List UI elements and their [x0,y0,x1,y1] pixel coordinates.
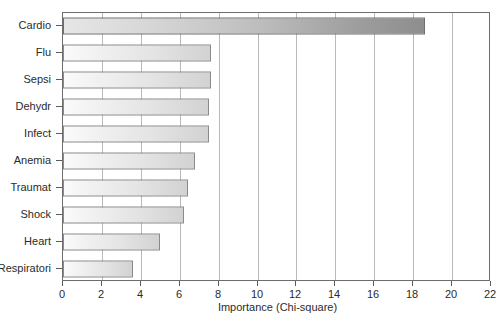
x-tick [218,281,219,286]
bar-slot [63,94,489,121]
y-tick [56,106,62,107]
bar[interactable] [63,18,425,35]
bar[interactable] [63,179,188,196]
x-tick [62,281,63,286]
y-tick-label-traumat: Traumat [10,181,51,193]
y-tick-label-anemia: Anemia [14,154,51,166]
y-tick [56,160,62,161]
plot-area [62,12,490,281]
bar-slot [63,228,489,255]
y-tick [56,241,62,242]
y-tick-label-flu: Flu [36,46,51,58]
x-tick [451,281,452,286]
x-tick-label-12: 12 [289,288,301,300]
chart-screenshot: CardioFluSepsiDehydrInfectAnemiaTraumatS… [0,0,499,318]
y-tick [56,187,62,188]
y-tick-label-heart: Heart [24,235,51,247]
y-tick-label-cardio: Cardio [19,19,51,31]
x-tick-label-6: 6 [176,288,182,300]
x-tick [412,281,413,286]
bar-slot [63,201,489,228]
x-axis-title: Importance (Chi-square) [0,301,499,313]
x-tick-label-20: 20 [445,288,457,300]
bar-slot [63,67,489,94]
bar[interactable] [63,126,209,143]
bar-slot [63,148,489,175]
x-tick-label-22: 22 [484,288,496,300]
y-tick-label-respiratori: Respiratori [0,262,51,274]
bar[interactable] [63,152,195,169]
x-tick-label-4: 4 [137,288,143,300]
bar[interactable] [63,45,211,62]
bar-slot [63,121,489,148]
y-tick-label-infect: Infect [24,127,51,139]
bar[interactable] [63,99,209,116]
x-tick-label-2: 2 [98,288,104,300]
bar[interactable] [63,72,211,89]
x-tick-label-16: 16 [367,288,379,300]
bar-slot [63,255,489,282]
bar-slot [63,174,489,201]
y-tick-label-shock: Shock [20,208,51,220]
y-tick [56,25,62,26]
y-tick [56,133,62,134]
bar-slot [63,13,489,40]
x-tick-label-8: 8 [215,288,221,300]
x-tick [179,281,180,286]
x-tick [101,281,102,286]
bar-slot [63,40,489,67]
bar[interactable] [63,260,133,277]
x-tick [490,281,491,286]
x-tick-label-14: 14 [328,288,340,300]
y-tick-label-sepsi: Sepsi [23,73,51,85]
bar[interactable] [63,233,160,250]
x-axis-title-label: Importance (Chi-square) [218,301,337,313]
bar[interactable] [63,206,184,223]
y-tick-label-dehydr: Dehydr [16,100,51,112]
x-tick-label-18: 18 [406,288,418,300]
bar-series [63,13,489,280]
x-tick [334,281,335,286]
x-tick-label-0: 0 [59,288,65,300]
y-tick [56,79,62,80]
x-tick [295,281,296,286]
x-tick-label-10: 10 [251,288,263,300]
x-tick [257,281,258,286]
x-tick [140,281,141,286]
x-tick [373,281,374,286]
y-tick [56,268,62,269]
y-tick [56,214,62,215]
y-tick [56,52,62,53]
